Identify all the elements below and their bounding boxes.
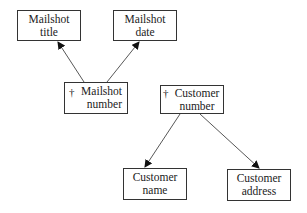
arrow-mailshot-number-to-date bbox=[107, 42, 139, 82]
label-line: address bbox=[228, 185, 290, 198]
entity-customer-name: Customer name bbox=[123, 168, 187, 200]
key-dagger-icon: † bbox=[69, 86, 75, 99]
key-dagger-icon: † bbox=[163, 87, 169, 100]
label-line: Mailshot bbox=[18, 13, 80, 26]
arrow-customer-number-to-address bbox=[200, 114, 259, 168]
entity-mailshot-title: Mailshot title bbox=[17, 10, 81, 41]
label-line: name bbox=[124, 184, 186, 197]
label-line: number bbox=[65, 98, 122, 111]
entity-customer-number: † Customer number bbox=[160, 85, 224, 114]
arrow-mailshot-number-to-title bbox=[58, 42, 84, 82]
arrow-customer-number-to-name bbox=[145, 114, 180, 167]
label-line: date bbox=[114, 26, 176, 39]
label-line: Customer bbox=[228, 172, 290, 185]
entity-mailshot-number: † Mailshot number bbox=[64, 82, 128, 114]
label-line: Customer bbox=[171, 87, 223, 100]
label-line: title bbox=[18, 26, 80, 39]
entity-customer-address: Customer address bbox=[227, 169, 291, 201]
entity-mailshot-date: Mailshot date bbox=[113, 10, 177, 41]
label-line: Customer bbox=[124, 171, 186, 184]
label-line: Mailshot bbox=[114, 13, 176, 26]
label-line: number bbox=[171, 100, 223, 113]
